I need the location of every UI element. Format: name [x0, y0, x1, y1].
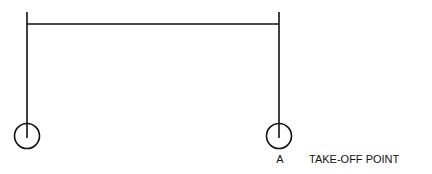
take-off-point-diagram: A TAKE-OFF POINT [0, 0, 432, 174]
take-off-point-annotation: TAKE-OFF POINT [309, 153, 400, 165]
point-a-label: A [276, 153, 284, 165]
